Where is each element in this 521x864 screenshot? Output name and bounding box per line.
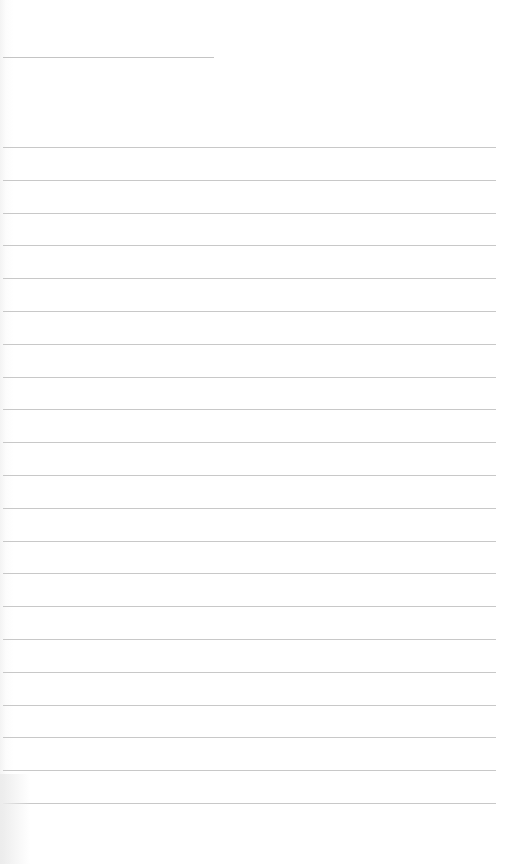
ruled-line [3,770,496,771]
title-line [3,57,214,58]
ruled-line [3,803,496,804]
ruled-line [3,147,496,148]
ruled-line [3,672,496,673]
page-edge-shadow [0,774,30,864]
ruled-line [3,311,496,312]
notepad-page [0,0,521,864]
ruled-line [3,639,496,640]
ruled-line [3,541,496,542]
ruled-line [3,442,496,443]
ruled-line [3,508,496,509]
ruled-line [3,737,496,738]
ruled-line [3,180,496,181]
ruled-line [3,213,496,214]
ruled-line [3,278,496,279]
ruled-line [3,409,496,410]
ruled-line [3,245,496,246]
ruled-line [3,377,496,378]
ruled-line [3,606,496,607]
ruled-line [3,344,496,345]
ruled-line [3,705,496,706]
ruled-line [3,475,496,476]
ruled-line [3,573,496,574]
